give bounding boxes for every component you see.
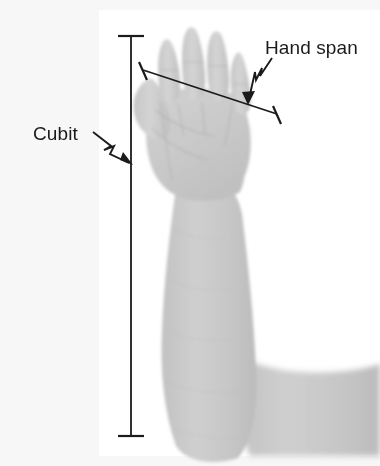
hand-span-label: Hand span — [265, 37, 358, 58]
figure-root: Cubit Hand span — [0, 0, 380, 466]
cubit-label: Cubit — [33, 123, 78, 144]
anatomy-measurement-figure: Cubit Hand span — [0, 0, 380, 466]
forearm-shape — [162, 180, 257, 462]
